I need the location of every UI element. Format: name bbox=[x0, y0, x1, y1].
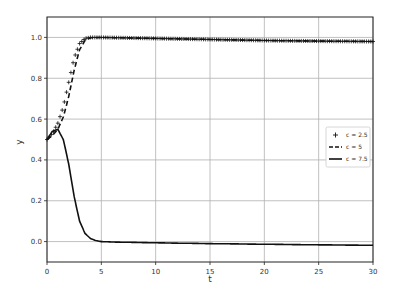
y-tick-label: 0.8 bbox=[31, 75, 42, 83]
y-tick-label: 0.0 bbox=[31, 238, 42, 246]
y-tick-label: 0.6 bbox=[31, 116, 43, 124]
legend-label: c = 7.5 bbox=[346, 155, 368, 162]
legend-label: c = 2.5 bbox=[346, 131, 368, 138]
y-axis-label: y bbox=[14, 139, 24, 145]
x-tick-label: 20 bbox=[260, 268, 269, 276]
grid-lines bbox=[47, 17, 373, 262]
x-tick-label: 0 bbox=[45, 268, 49, 276]
y-axis-ticks: 0.00.20.40.60.81.0 bbox=[31, 34, 47, 246]
x-tick-label: 30 bbox=[369, 268, 378, 276]
y-tick-label: 0.4 bbox=[31, 156, 43, 164]
y-tick-label: 0.2 bbox=[31, 197, 42, 205]
y-tick-label: 1.0 bbox=[31, 34, 42, 42]
x-tick-label: 5 bbox=[99, 268, 103, 276]
x-tick-label: 25 bbox=[314, 268, 323, 276]
x-axis-label: t bbox=[208, 274, 212, 284]
line-chart: 051015202530 0.00.20.40.60.81.0 t y c = … bbox=[0, 0, 397, 304]
legend: c = 2.5c = 5c = 7.5 bbox=[326, 127, 370, 167]
legend-label: c = 5 bbox=[346, 143, 362, 150]
x-tick-label: 10 bbox=[151, 268, 160, 276]
